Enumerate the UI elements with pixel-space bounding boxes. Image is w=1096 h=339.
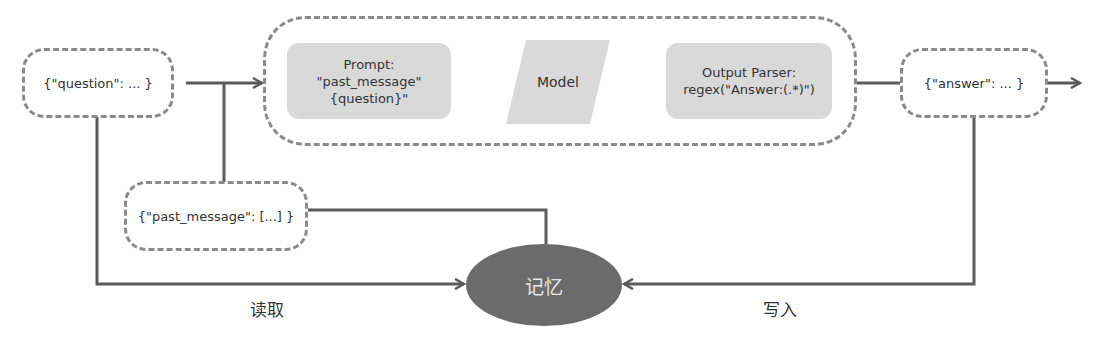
past-message-node: {"past_message": [...] } — [124, 181, 308, 251]
model-label: Model — [537, 74, 579, 90]
output-parser-node: Output Parser: regex("Answer:(.*)") — [666, 43, 832, 119]
answer-label: {"answer": ... } — [924, 76, 1025, 91]
write-edge-label: 写入 — [763, 296, 797, 321]
memory-node: 记忆 — [466, 244, 622, 326]
prompt-template-line1: "past_message" — [317, 73, 422, 90]
past-message-label: {"past_message": [...] } — [138, 209, 295, 224]
output-parser-title: Output Parser: — [702, 64, 796, 81]
question-label: {"question": ... } — [43, 76, 153, 91]
read-edge-label: 读取 — [250, 296, 284, 321]
output-parser-regex: regex("Answer:(.*)") — [683, 81, 815, 98]
question-input-node: {"question": ... } — [22, 48, 174, 118]
memory-label: 记忆 — [525, 272, 563, 299]
prompt-node: Prompt: "past_message" {question}" — [287, 43, 451, 119]
model-node: Model — [506, 40, 610, 124]
answer-output-node: {"answer": ... } — [900, 48, 1048, 118]
prompt-template-line2: {question}" — [330, 90, 409, 107]
prompt-title: Prompt: — [343, 56, 394, 73]
